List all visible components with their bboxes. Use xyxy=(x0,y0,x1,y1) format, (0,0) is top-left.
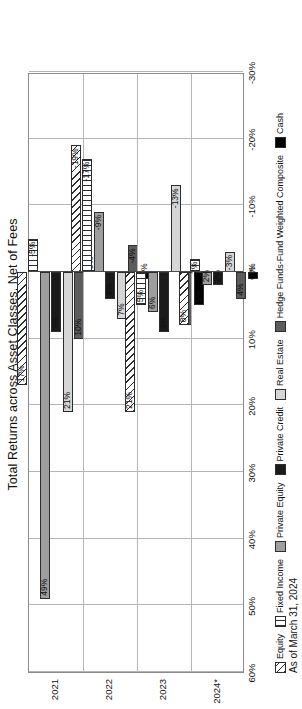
bar-row: 21% xyxy=(125,74,135,672)
legend-item-equity[interactable]: Equity xyxy=(275,634,286,673)
legend-item-private-equity[interactable]: Private Equity xyxy=(275,482,286,552)
bar-row: 2% xyxy=(202,74,212,672)
category-label-2024: 2024* xyxy=(211,679,222,704)
bar-value-label: 17% xyxy=(16,365,26,382)
category-label-2021: 2021 xyxy=(49,679,60,700)
bar-value-label: -9% xyxy=(93,215,103,230)
bar-row: -17% xyxy=(82,74,92,672)
bar-row: -5% xyxy=(28,74,38,672)
legend-swatch-icon xyxy=(275,137,286,148)
x-tick-60: 60% xyxy=(246,663,257,682)
bar-value-label: 4% xyxy=(104,283,114,295)
bar-row: 4% xyxy=(105,74,115,672)
bar-value-label: 6% xyxy=(147,297,157,309)
bar-row: 17% xyxy=(17,74,27,672)
x-tick-minus30: -30% xyxy=(246,62,257,84)
bar-value-label: 4% xyxy=(235,283,245,295)
bar-row: -19% xyxy=(71,74,81,672)
legend-label: Private Equity xyxy=(275,482,285,538)
category-label-2022: 2022 xyxy=(103,679,114,700)
legend-item-hedge-funds-fund-weighted-composite[interactable]: Hedge Funds-Fund Weighted Composite xyxy=(275,155,286,332)
bar-value-label: 49% xyxy=(39,579,49,596)
bar-row: -3% xyxy=(225,74,235,672)
legend-label: Hedge Funds-Fund Weighted Composite xyxy=(275,155,285,318)
legend-label: Cash xyxy=(275,113,285,134)
bar-value-label: -3% xyxy=(224,255,234,270)
x-axis-tick-labels: 60%50%40%30%20%10%0%-10%-20%-30% xyxy=(246,73,268,673)
bar-row: 9% xyxy=(51,74,61,672)
x-tick-10: 10% xyxy=(246,330,257,349)
x-tick-20: 20% xyxy=(246,397,257,416)
legend-swatch-icon xyxy=(275,541,286,552)
bar-value-label: 5% xyxy=(135,290,145,302)
bar-private-equity-2021 xyxy=(40,272,50,599)
chart-footnote: As of March 31, 2024 xyxy=(288,578,299,673)
legend-swatch-icon xyxy=(275,321,286,332)
category-axis-labels: 2021202220232024* xyxy=(28,675,244,709)
bar-value-label: 8% xyxy=(178,310,188,322)
x-tick-minus20: -20% xyxy=(246,129,257,151)
bar-row: 5% xyxy=(136,74,146,672)
legend-label: Equity xyxy=(275,634,285,659)
legend-item-fixed-income[interactable]: Fixed Income xyxy=(275,559,286,627)
chart-figure: Total Returns across Asset Classes, Net … xyxy=(0,0,302,709)
x-tick-50: 50% xyxy=(246,597,257,616)
bar-value-label: -19% xyxy=(70,148,80,168)
bar-value-label: -5% xyxy=(27,242,37,257)
legend-swatch-icon xyxy=(275,616,286,627)
legend-swatch-icon xyxy=(275,389,286,400)
x-tick-0: 0% xyxy=(246,266,257,280)
bar-value-label: 21% xyxy=(124,392,134,409)
bar-row: 9% xyxy=(159,74,169,672)
category-label-2023: 2023 xyxy=(157,679,168,700)
legend-item-cash[interactable]: Cash xyxy=(275,113,286,148)
bar-row: 49% xyxy=(40,74,50,672)
bar-value-label: -17% xyxy=(81,162,91,182)
zero-line xyxy=(29,271,243,272)
legend-label: Private Credit xyxy=(275,407,285,462)
gridline xyxy=(29,71,243,72)
bar-row: -2% xyxy=(190,74,200,672)
bar-value-label: 9% xyxy=(50,317,60,329)
bar-row: 2% xyxy=(213,74,223,672)
legend-item-real-estate[interactable]: Real Estate xyxy=(275,339,286,400)
legend-label: Fixed Income xyxy=(275,559,285,613)
plot-area: 17%-5%49%9%21%10%0%-19%-17%-9%4%7%-4%1%2… xyxy=(28,73,244,673)
legend-swatch-icon xyxy=(275,464,286,475)
x-tick-40: 40% xyxy=(246,530,257,549)
bar-row: 8% xyxy=(179,74,189,672)
x-tick-30: 30% xyxy=(246,463,257,482)
chart-legend: EquityFixed IncomePrivate EquityPrivate … xyxy=(272,33,288,673)
bar-value-label: -2% xyxy=(189,262,199,277)
bar-value-label: 9% xyxy=(158,317,168,329)
x-tick-minus10: -10% xyxy=(246,195,257,217)
bar-row: 4% xyxy=(236,74,246,672)
legend-item-private-credit[interactable]: Private Credit xyxy=(275,407,286,476)
legend-label: Real Estate xyxy=(275,339,285,386)
bar-row: 6% xyxy=(148,74,158,672)
bar-row: -9% xyxy=(94,74,104,672)
legend-swatch-icon xyxy=(275,662,286,673)
